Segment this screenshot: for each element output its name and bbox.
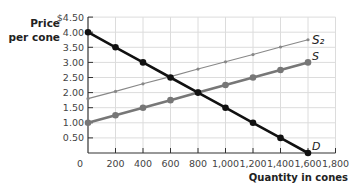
data-point [140,59,147,66]
x-tick-label: 1,200 [239,158,266,169]
data-point [250,120,257,127]
y-tick-label: 1.50 [63,102,84,113]
data-point [305,150,312,157]
series-label-s2: S₂ [312,33,325,47]
x-tick-label: 1,400 [267,158,294,169]
x-tick-label: 1,600 [294,158,321,169]
data-point [85,29,92,36]
data-point [195,89,202,96]
data-point [250,74,257,81]
data-point [277,135,284,142]
data-point [141,82,144,85]
grid-lines [88,17,336,153]
data-point [224,60,227,63]
data-point [277,67,284,74]
data-point [167,97,174,104]
axes [88,17,336,153]
data-point [222,104,229,111]
y-tick-label: 2.00 [63,87,84,98]
y-tick-label: 2.50 [63,72,84,83]
x-tick-label: 1,800 [322,158,349,169]
y-tick-label: 4.00 [63,27,84,38]
data-point [167,74,174,81]
data-point [222,82,229,89]
data-point [114,90,117,93]
y-tick-label: 1.00 [63,117,84,128]
data-point [306,38,309,41]
y-axis-title: Price per cone [2,16,60,44]
x-tick-label: 1,000 [212,158,239,169]
data-point [279,45,282,48]
data-point [85,120,92,127]
data-point [196,67,199,70]
data-point [140,104,147,111]
x-tick-label: 400 [134,158,152,169]
data-point [112,112,119,119]
series-label-d: D [312,140,320,153]
data-point [112,44,119,51]
y-tick-label: $4.50 [57,12,84,23]
y-axis-title-line-1: Price [2,16,60,30]
y-tick-label: 3.50 [63,42,84,53]
y-tick-label: 3.00 [63,57,84,68]
x-tick-label: 0 [77,158,83,169]
x-tick-label: 200 [106,158,124,169]
y-axis-title-line-2: per cone [2,30,60,44]
x-axis-title: Quantity in cones [249,172,348,183]
data-point [305,59,312,66]
data-point [251,53,254,56]
x-tick-label: 800 [189,158,207,169]
data-point [86,97,89,100]
y-tick-label: 0.50 [63,132,84,143]
series-label-s: S [312,50,319,63]
x-tick-label: 600 [161,158,179,169]
